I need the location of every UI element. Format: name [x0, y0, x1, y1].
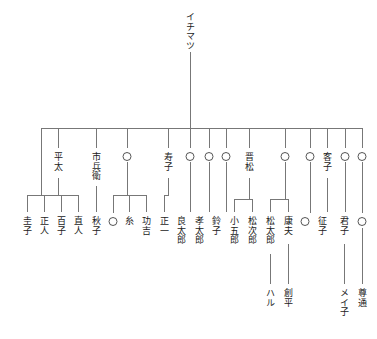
gen3-node-ryotaro: 良太郎: [176, 216, 187, 245]
gen4-node-takamichi: 尊通: [357, 288, 368, 307]
gen2-node-circle: [306, 152, 315, 161]
gen2-node-ichibee: 市兵衛: [91, 152, 102, 181]
gen2-node-circle: [281, 152, 290, 161]
gen3-node-keiko: 圭子: [22, 216, 33, 235]
gen3-node-ito: 糸: [124, 216, 135, 226]
gen3-node-kotaro: 孝太郎: [194, 216, 205, 245]
family-tree-diagram: イチマツ 平太 市兵衛 寿子 晋松 客子 圭子 正人 百子 直人 秋子 糸 功吉…: [0, 0, 377, 339]
gen2-node-hisako: 寿子: [163, 152, 174, 171]
gen2-node-heita: 平太: [53, 152, 64, 171]
gen2-node-circle: [186, 152, 195, 161]
gen2-node-circle: [205, 152, 214, 161]
gen3-node-seiko: 征子: [317, 216, 328, 235]
gen3-node-akiko: 秋子: [91, 216, 102, 235]
gen3-node-circle: [358, 217, 367, 226]
gen3-node-naoto: 直人: [73, 216, 84, 235]
gen3-node-momoko: 百子: [56, 216, 67, 235]
gen4-node-sohei: 創平: [283, 288, 294, 307]
gen2-node-kyakushi: 客子: [322, 152, 333, 171]
gen3-node-masato: 正人: [39, 216, 50, 235]
gen3-node-yasuo: 康夫: [283, 216, 294, 235]
gen3-node-kokichi: 功吉: [141, 216, 152, 235]
gen4-node-meiko: メイ子: [339, 288, 350, 317]
gen3-node-matsutaro: 松太郎: [265, 216, 276, 245]
gen3-node-kogoro: 小五郎: [229, 216, 240, 245]
gen3-node-shoichi: 正一: [159, 216, 170, 235]
gen2-node-shinmatsu: 晋松: [244, 152, 255, 171]
root-node-label: イチマツ: [185, 12, 196, 50]
gen2-node-circle: [341, 152, 350, 161]
gen4-node-haru: ハル: [265, 288, 276, 307]
gen3-node-suzuko: 鈴子: [211, 216, 222, 235]
gen3-node-circle: [301, 217, 310, 226]
gen3-node-circle: [109, 217, 118, 226]
gen2-node-circle: [222, 152, 231, 161]
gen3-node-matsujiro: 松次郎: [247, 216, 258, 245]
gen2-node-circle: [358, 152, 367, 161]
gen2-node-circle: [123, 152, 132, 161]
gen3-node-kimiko: 君子: [339, 216, 350, 235]
